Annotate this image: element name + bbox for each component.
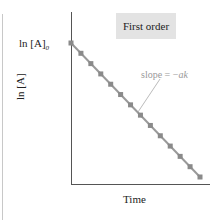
data-point	[69, 41, 74, 46]
y-axis-label: ln [A]	[14, 73, 26, 100]
y0-sub: 0	[46, 44, 50, 52]
data-point	[98, 71, 103, 76]
chart-title-box: First order	[116, 13, 176, 39]
y-intercept-label: ln [A]0	[19, 37, 49, 52]
data-point	[88, 61, 93, 66]
slope-prefix: slope = −	[141, 69, 178, 80]
slope-var: ak	[178, 69, 187, 80]
y0-main: ln [A]	[19, 37, 46, 49]
data-point	[178, 154, 183, 159]
data-point	[198, 175, 203, 180]
data-point	[188, 164, 193, 169]
slope-annotation: slope = −ak	[141, 69, 188, 80]
data-point	[148, 123, 153, 128]
data-point	[78, 51, 83, 56]
chart-title: First order	[123, 20, 169, 32]
data-point	[138, 113, 143, 118]
data-point	[108, 82, 113, 87]
data-point	[168, 144, 173, 149]
slope-leader-line	[138, 79, 160, 112]
data-point	[158, 133, 163, 138]
data-point	[128, 102, 133, 107]
x-axis-label: Time	[123, 193, 146, 205]
plot-area	[0, 0, 221, 220]
data-point	[118, 92, 123, 97]
